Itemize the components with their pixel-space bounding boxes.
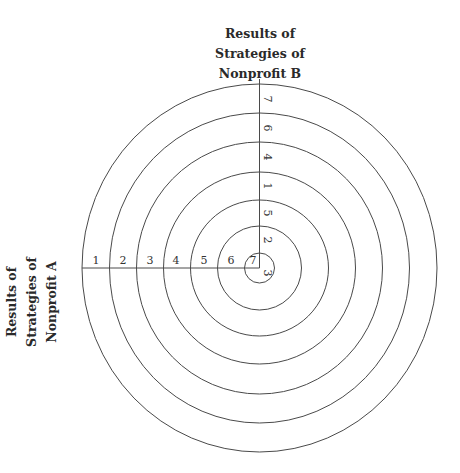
v-value-6: 2 xyxy=(261,237,274,244)
v-value-2: 6 xyxy=(261,125,274,132)
v-value-7: 3 xyxy=(261,270,274,277)
v-value-5: 5 xyxy=(261,210,274,217)
h-value-2: 2 xyxy=(120,254,127,267)
target-diagram: 1 2 3 4 5 6 7 7 6 4 1 5 2 3 xyxy=(0,0,460,473)
h-value-5: 5 xyxy=(201,254,208,267)
h-value-3: 3 xyxy=(147,254,154,267)
h-value-4: 4 xyxy=(173,254,180,267)
v-value-1: 7 xyxy=(261,96,274,103)
v-value-4: 1 xyxy=(261,183,274,190)
h-value-6: 6 xyxy=(228,254,235,267)
h-value-1: 1 xyxy=(93,254,100,267)
h-value-7: 7 xyxy=(250,254,257,267)
v-value-3: 4 xyxy=(261,154,274,161)
vertical-axis-values: 7 6 4 1 5 2 3 xyxy=(261,96,274,277)
horizontal-axis-values: 1 2 3 4 5 6 7 xyxy=(93,254,257,267)
